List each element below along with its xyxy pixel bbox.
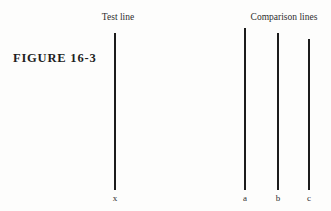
figure-stage: FIGURE 16-3 Test line Comparison lines x… [0,0,331,211]
test-line-x [114,33,116,190]
comparison-line-a [244,28,246,190]
comparison-line-c-label: c [307,193,311,203]
figure-caption: FIGURE 16-3 [13,51,96,66]
comparison-lines-heading: Comparison lines [251,12,318,22]
comparison-line-b-label: b [276,193,281,203]
test-line-x-label: x [113,193,118,203]
comparison-line-c [308,39,310,190]
test-line-heading: Test line [102,12,134,22]
comparison-line-a-label: a [243,193,247,203]
comparison-line-b [277,33,279,190]
